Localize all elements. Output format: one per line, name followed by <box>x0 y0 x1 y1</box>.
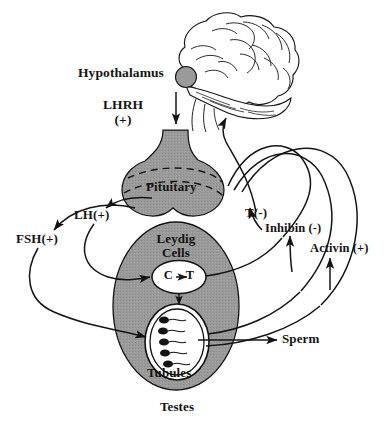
label-activin: Activin (+) <box>310 242 369 256</box>
pituitary-organ <box>122 130 224 216</box>
label-leydig-line1: Leydig <box>148 232 204 246</box>
label-inhibin: Inhibin (-) <box>265 222 321 236</box>
label-pituitary: Pituitary <box>146 180 197 194</box>
label-testes: Testes <box>160 400 194 414</box>
arrow-inhibin-head <box>290 236 292 272</box>
label-leydig-cells: Leydig Cells <box>148 232 204 260</box>
label-fsh: FSH(+) <box>16 232 58 246</box>
label-conversion: CT <box>153 269 205 283</box>
arrow-feedback-to-brain <box>223 118 256 212</box>
label-cholesterol: C <box>164 268 173 282</box>
label-hypothalamus: Hypothalamus <box>78 66 164 81</box>
hypothalamus-marker <box>176 67 197 88</box>
label-lhrh-line1: LHRH <box>96 98 150 113</box>
label-sperm: Sperm <box>282 332 319 346</box>
label-lh: LH(+) <box>74 208 109 222</box>
label-lhrh: LHRH (+) <box>96 98 150 127</box>
label-tubules: Tubules <box>147 366 191 380</box>
diagram-canvas: Hypothalamus LHRH (+) Pituitary LH(+) FS… <box>0 0 392 426</box>
label-lhrh-sign: (+) <box>96 113 150 128</box>
brain-illustration <box>176 13 299 132</box>
diagram-vector-layer <box>0 0 392 426</box>
label-leydig-line2: Cells <box>148 246 204 260</box>
label-testosterone-negative: T(-) <box>245 206 267 220</box>
label-testosterone: T <box>186 268 194 282</box>
